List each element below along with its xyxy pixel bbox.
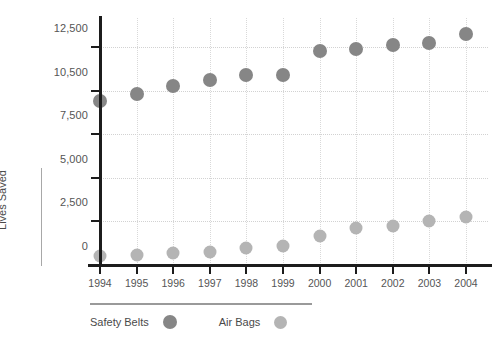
data-point-belts[interactable] — [422, 36, 436, 50]
data-point-bags[interactable] — [130, 249, 143, 262]
x-axis-tick — [355, 266, 357, 274]
x-axis-tick-label: 1998 — [226, 277, 266, 289]
x-axis-tick — [282, 266, 284, 274]
legend-divider — [90, 303, 312, 305]
legend-marker-icon — [274, 316, 287, 329]
legend-label: Safety Belts — [90, 316, 149, 328]
x-axis-tick — [428, 266, 430, 274]
data-point-belts[interactable] — [313, 44, 327, 58]
data-point-bags[interactable] — [240, 242, 253, 255]
data-point-bags[interactable] — [313, 230, 326, 243]
x-axis-tick — [209, 266, 211, 274]
x-axis-tick — [172, 266, 174, 274]
data-point-belts[interactable] — [386, 38, 400, 52]
x-axis-tick-label: 2001 — [336, 277, 376, 289]
data-point-belts[interactable] — [203, 73, 217, 87]
x-axis-tick — [392, 266, 394, 274]
y-axis-tick-label: 0 — [32, 240, 88, 252]
data-point-belts[interactable] — [276, 68, 290, 82]
data-point-belts[interactable] — [166, 79, 180, 93]
x-axis-tick-label: 2004 — [446, 277, 486, 289]
y-axis-tick-label: 10,500 — [32, 66, 88, 78]
data-point-bags[interactable] — [350, 222, 363, 235]
x-axis-tick-label: 1997 — [190, 277, 230, 289]
y-axis-tick-label: 5,000 — [32, 153, 88, 165]
data-point-bags[interactable] — [203, 245, 216, 258]
vertical-gridline — [210, 18, 211, 265]
vertical-gridline — [283, 18, 284, 265]
data-point-belts[interactable] — [349, 42, 363, 56]
data-point-belts[interactable] — [130, 87, 144, 101]
x-axis-tick — [136, 266, 138, 274]
data-point-bags[interactable] — [386, 219, 399, 232]
x-axis-line — [88, 264, 492, 267]
x-axis-tick — [319, 266, 321, 274]
vertical-gridline — [137, 18, 138, 265]
y-axis-line — [99, 16, 102, 267]
vertical-gridline — [429, 18, 430, 265]
x-axis-tick-label: 1999 — [263, 277, 303, 289]
data-point-bags[interactable] — [277, 239, 290, 252]
x-axis-tick-label: 1996 — [153, 277, 193, 289]
x-axis-tick — [245, 266, 247, 274]
legend-item-bags[interactable]: Air Bags — [219, 316, 288, 329]
x-axis-tick — [465, 266, 467, 274]
data-point-belts[interactable] — [459, 27, 473, 41]
vertical-gridline — [173, 18, 174, 265]
x-axis-tick — [99, 266, 101, 274]
legend-item-belts[interactable]: Safety Belts — [90, 315, 177, 329]
x-axis-tick-label: 2003 — [409, 277, 449, 289]
data-point-bags[interactable] — [167, 246, 180, 259]
x-axis-tick-label: 1995 — [117, 277, 157, 289]
plot-area — [100, 18, 488, 265]
y-axis-tick-label: 2,500 — [32, 196, 88, 208]
x-axis-tick-label: 1994 — [80, 277, 120, 289]
legend-marker-icon — [163, 315, 177, 329]
data-point-belts[interactable] — [239, 68, 253, 82]
legend-label: Air Bags — [219, 316, 261, 328]
y-axis-tick-labels: 02,5005,0007,50010,50012,500 — [28, 0, 88, 247]
x-axis-tick-label: 2002 — [373, 277, 413, 289]
vertical-gridline — [246, 18, 247, 265]
y-axis-tick-label: 12,500 — [32, 22, 88, 34]
y-axis-tick-label: 7,500 — [32, 109, 88, 121]
chart-legend: Safety BeltsAir Bags — [90, 311, 287, 333]
x-axis-tick-label: 2000 — [300, 277, 340, 289]
y-axis-title: Lives Saved — [0, 150, 8, 250]
data-point-bags[interactable] — [423, 215, 436, 228]
vertical-gridline — [466, 18, 467, 265]
data-point-bags[interactable] — [460, 211, 473, 224]
lives-saved-scatter-chart: Lives Saved 02,5005,0007,50010,50012,500… — [0, 0, 503, 345]
